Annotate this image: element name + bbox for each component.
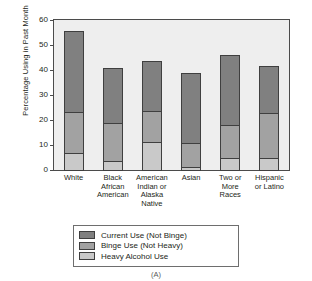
bar-segment-heavy[interactable] <box>220 158 240 172</box>
bar-segment-current[interactable] <box>181 73 201 144</box>
x-axis-label-line: Native <box>124 200 180 209</box>
y-tick-mark <box>50 45 54 46</box>
x-axis-label-line: or Latino <box>241 183 297 192</box>
bar-segment-heavy[interactable] <box>103 161 123 171</box>
bar-segment-current[interactable] <box>142 61 162 112</box>
legend-label: Heavy Alcohol Use <box>101 252 168 261</box>
bar-two-or-more-races[interactable] <box>220 55 240 170</box>
legend-swatch-current <box>79 231 95 239</box>
chart-legend: Current Use (Not Binge)Binge Use (Not He… <box>73 225 239 267</box>
bar-segment-current[interactable] <box>64 31 84 113</box>
legend-item[interactable]: Heavy Alcohol Use <box>79 252 233 261</box>
y-tick-label: 60 <box>39 15 48 25</box>
legend-label: Current Use (Not Binge) <box>101 231 187 240</box>
legend-label: Binge Use (Not Heavy) <box>101 241 183 250</box>
bar-segment-current[interactable] <box>259 66 279 114</box>
bar-segment-binge[interactable] <box>103 123 123 162</box>
bar-asian[interactable] <box>181 73 201 170</box>
legend-item[interactable]: Current Use (Not Binge) <box>79 231 233 240</box>
x-axis-label: Hispanicor Latino <box>241 174 297 191</box>
bar-segment-heavy[interactable] <box>181 167 201 172</box>
bar-hispanic-or-latino[interactable] <box>259 66 279 170</box>
plot-inner: 0102030405060 <box>54 20 289 170</box>
bar-white[interactable] <box>64 31 84 170</box>
bar-segment-binge[interactable] <box>181 143 201 168</box>
bar-segment-binge[interactable] <box>142 111 162 143</box>
y-axis-title: Percentage Using in Past Month <box>21 0 30 141</box>
legend-item[interactable]: Binge Use (Not Heavy) <box>79 241 233 250</box>
bar-segment-heavy[interactable] <box>259 158 279 171</box>
bar-segment-binge[interactable] <box>259 113 279 159</box>
y-tick-mark <box>50 20 54 21</box>
bar-black-african-american[interactable] <box>103 68 123 170</box>
y-tick-mark <box>50 145 54 146</box>
legend-swatch-heavy <box>79 252 95 260</box>
bar-american-indian-or-alaska-native[interactable] <box>142 61 162 170</box>
legend-swatch-binge <box>79 242 95 250</box>
y-tick-label: 50 <box>39 40 48 50</box>
y-tick-label: 0 <box>44 165 48 175</box>
y-tick-label: 20 <box>39 115 48 125</box>
y-tick-mark <box>50 70 54 71</box>
y-tick-label: 10 <box>39 140 48 150</box>
y-tick-mark <box>50 120 54 121</box>
bar-segment-current[interactable] <box>220 55 240 125</box>
bar-segment-binge[interactable] <box>64 112 84 154</box>
x-axis-label-line: Races <box>202 191 258 200</box>
stacked-bar-chart: Percentage Using in Past Month 010203040… <box>0 0 312 281</box>
y-tick-label: 30 <box>39 90 48 100</box>
plot-area: 0102030405060 <box>53 19 290 171</box>
y-tick-label: 40 <box>39 65 48 75</box>
bar-segment-current[interactable] <box>103 68 123 124</box>
y-tick-mark <box>50 170 54 171</box>
bar-segment-heavy[interactable] <box>64 153 84 171</box>
bar-segment-binge[interactable] <box>220 125 240 159</box>
bar-segment-heavy[interactable] <box>142 142 162 172</box>
y-tick-mark <box>50 95 54 96</box>
figure-caption: (A) <box>0 270 312 279</box>
